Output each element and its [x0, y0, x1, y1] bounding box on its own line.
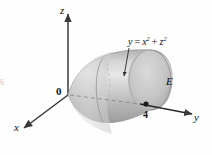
surface-equation-label: y = x2 + z2: [128, 36, 167, 47]
z-axis-label: z: [60, 5, 64, 16]
tick-label-4: 4: [143, 110, 148, 120]
paraboloid-solid: [68, 50, 172, 134]
x-axis-label: x: [14, 122, 19, 133]
figure-canvas: z y x 0 4 E y = x2 + z2 6: [0, 0, 212, 155]
solid-label-E: E: [166, 76, 173, 87]
equation-term2-exponent: 2: [163, 35, 166, 42]
y-axis-label: y: [194, 112, 199, 123]
margin-artifact-mark: 6: [0, 78, 4, 87]
tick-point-4: [143, 101, 148, 106]
x-axis-line: [24, 95, 68, 128]
paraboloid-diagram-svg: [0, 0, 212, 155]
origin-label: 0: [56, 86, 62, 97]
paraboloid-nose-highlight: [68, 52, 112, 134]
